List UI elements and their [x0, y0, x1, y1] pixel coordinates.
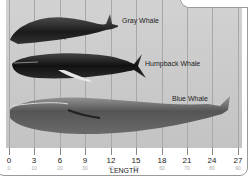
- feet-label: 10: [22, 165, 46, 171]
- meter-label: 12: [99, 156, 123, 165]
- feet-label: 30: [73, 165, 97, 171]
- feet-label: 20: [48, 165, 72, 171]
- meter-label: 27: [226, 156, 248, 165]
- axis-title: LENGTH: [110, 167, 138, 174]
- axis-tick: [136, 148, 137, 155]
- meter-label: 18: [150, 156, 174, 165]
- whale-label-gray: Gray Whale: [122, 17, 159, 24]
- meter-label: 0: [0, 156, 21, 165]
- axis-tick: [238, 148, 239, 155]
- whale-label-blue: Blue Whale: [172, 95, 208, 102]
- humpback-whale-image: [8, 50, 148, 84]
- feet-label: 90: [226, 165, 248, 171]
- axis-tick: [162, 148, 163, 155]
- whale-label-humpback: Humpback Whale: [145, 60, 200, 67]
- feet-label: 60: [150, 165, 174, 171]
- meter-label: 24: [200, 156, 224, 165]
- axis-tick: [9, 148, 10, 155]
- meter-label: 6: [48, 156, 72, 165]
- grid-line: [238, 0, 239, 148]
- axis-tick: [85, 148, 86, 155]
- axis-tick: [34, 148, 35, 155]
- gray-whale-image: [8, 10, 118, 44]
- feet-label: 70: [175, 165, 199, 171]
- meter-label: 15: [124, 156, 148, 165]
- corner-notch: [179, 0, 248, 8]
- axis-tick: [187, 148, 188, 155]
- axis-tick: [111, 148, 112, 155]
- meter-label: 21: [175, 156, 199, 165]
- feet-label: 0: [0, 165, 21, 171]
- axis-tick: [60, 148, 61, 155]
- axis-tick: [212, 148, 213, 155]
- meter-label: 3: [22, 156, 46, 165]
- meter-label: 9: [73, 156, 97, 165]
- feet-label: 80: [200, 165, 224, 171]
